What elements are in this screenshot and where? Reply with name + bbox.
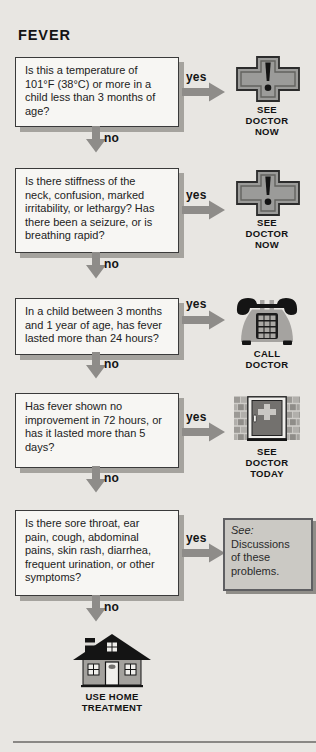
question-box-3: In a child between 3 months and 1 year o… xyxy=(15,298,179,355)
no-label-5: no xyxy=(104,600,119,614)
medical-cross-exclamation-icon xyxy=(236,170,300,216)
yes-arrow-icon-3 xyxy=(182,309,226,331)
yes-arrow-icon-1 xyxy=(182,81,226,103)
see-note-lead: See: xyxy=(231,524,305,538)
no-label-2: no xyxy=(104,257,119,271)
house-icon xyxy=(72,633,152,690)
yes-arrow-icon-5 xyxy=(182,542,226,564)
no-label-3: no xyxy=(104,357,119,371)
action-label-3: CALL DOCTOR xyxy=(222,348,312,370)
see-note-body: Discussions of these problems. xyxy=(231,538,290,577)
yes-arrow-icon-4 xyxy=(182,421,226,443)
no-label-4: no xyxy=(104,471,119,485)
page-title: FEVER xyxy=(18,27,71,43)
flowchart-page: FEVER Is this a temperature of 101°F (38… xyxy=(0,0,316,752)
action-label-1: SEE DOCTOR NOW xyxy=(222,104,312,137)
yes-arrow-icon-2 xyxy=(182,199,226,221)
question-box-5: Is there sore throat, ear pain, cough, a… xyxy=(15,510,179,596)
medical-cross-exclamation-icon xyxy=(236,56,300,102)
action-label-4: SEE DOCTOR TODAY xyxy=(222,446,312,479)
question-box-1: Is this a temperature of 101°F (38°C) or… xyxy=(15,57,179,127)
clinic-door-icon xyxy=(234,396,300,442)
question-box-4: Has fever shown no improvement in 72 hou… xyxy=(15,393,179,468)
bottom-rule xyxy=(13,741,316,743)
see-note-box: See: Discussions of these problems. xyxy=(223,518,313,591)
action-label-2: SEE DOCTOR NOW xyxy=(222,217,312,250)
no-label-1: no xyxy=(104,131,119,145)
final-action-label: USE HOME TREATMENT xyxy=(67,691,157,713)
question-box-2: Is there stiffness of the neck, confusio… xyxy=(15,168,179,253)
telephone-icon xyxy=(233,295,301,347)
